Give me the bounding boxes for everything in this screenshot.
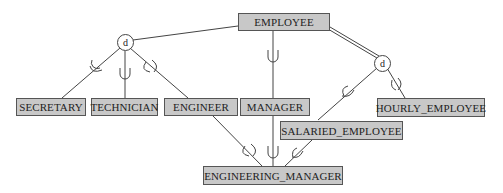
- edge-right-circle-to-hourly: [387, 68, 405, 98]
- disjoint-circle-right: d: [374, 55, 391, 72]
- edge-employee-to-right-circle-b: [330, 27, 379, 56]
- subset-icon: [91, 60, 100, 69]
- entity-employee: EMPLOYEE: [238, 13, 330, 31]
- edge-engineer-to-engmgr: [213, 116, 262, 166]
- entity-technician: TECHNICIAN: [91, 98, 158, 116]
- edge-employee-to-right-circle-a: [328, 29, 377, 58]
- entity-manager: MANAGER: [240, 98, 310, 116]
- subset-icon: [398, 78, 401, 90]
- entity-engineer: ENGINEER: [164, 98, 238, 116]
- entity-secretary: SECRETARY: [16, 98, 86, 116]
- edge-salaried-to-engmgr: [285, 140, 312, 166]
- entity-hourly-employee: HOURLY_EMPLOYEE: [377, 98, 485, 117]
- edge-left-circle-to-secretary: [62, 48, 120, 98]
- disjoint-circle-left: d: [117, 34, 134, 51]
- entity-salaried-employee: SALARIED_EMPLOYEE: [280, 121, 403, 140]
- subset-icon: [251, 144, 256, 156]
- subset-icon: [152, 60, 157, 72]
- edge-left-circle-to-engineer: [130, 48, 188, 98]
- edge-right-circle-to-salaried: [318, 68, 377, 120]
- subset-icon: [144, 62, 150, 72]
- subset-icon: [243, 146, 249, 156]
- edge-employee-to-left-circle: [133, 26, 238, 40]
- entity-engineering-manager: ENGINEERING_MANAGER: [203, 166, 343, 185]
